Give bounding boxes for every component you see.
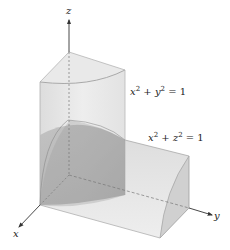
equation-cylinder-xz: x2 + z2 = 1 (148, 132, 204, 143)
y-axis (189, 208, 212, 215)
equation-cylinder-xy: x2 + y2 = 1 (130, 86, 186, 97)
y-axis-label: y (214, 211, 220, 221)
two-cylinders-figure (0, 0, 230, 250)
x-axis (19, 205, 40, 227)
z-axis-label: z (66, 6, 71, 16)
x-axis-label: x (13, 229, 19, 239)
